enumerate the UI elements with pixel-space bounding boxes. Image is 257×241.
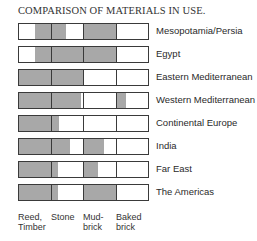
region-label: Mesopotamia/Persia	[156, 25, 243, 36]
material-bar	[18, 46, 149, 63]
chart-row	[18, 69, 149, 85]
usage-fill	[84, 47, 116, 62]
material-cell	[19, 93, 52, 108]
material-cell	[19, 70, 52, 85]
material-cell	[117, 162, 149, 177]
category-label: Bakedbrick	[116, 212, 142, 232]
chart-row	[18, 184, 149, 200]
material-bar	[18, 115, 149, 132]
material-cell	[19, 185, 52, 200]
material-bar	[18, 69, 149, 86]
usage-fill	[52, 70, 84, 85]
usage-fill	[84, 162, 98, 177]
chart-row	[18, 46, 149, 62]
material-cell	[19, 116, 52, 131]
category-label: Stone	[51, 212, 75, 232]
material-bar	[18, 23, 149, 40]
chart-row	[18, 161, 149, 177]
material-cell	[52, 93, 85, 108]
category-label: Mud-brick	[83, 212, 104, 232]
material-bar	[18, 138, 149, 155]
material-cell	[117, 24, 149, 39]
usage-fill	[52, 47, 84, 62]
material-cell	[19, 139, 52, 154]
usage-fill	[19, 162, 51, 177]
material-bar	[18, 161, 149, 178]
region-label: The Americas	[156, 186, 214, 197]
material-cell	[84, 24, 117, 39]
usage-fill	[52, 93, 82, 108]
material-cell	[84, 47, 117, 62]
material-cell	[52, 162, 85, 177]
material-cell	[52, 24, 85, 39]
usage-fill	[19, 93, 51, 108]
usage-fill	[35, 47, 51, 62]
region-label: Eastern Mediterranean	[156, 71, 253, 82]
material-cell	[52, 47, 85, 62]
material-cell	[117, 185, 149, 200]
region-label: Egypt	[156, 48, 180, 59]
material-cell	[52, 185, 85, 200]
usage-fill	[52, 24, 66, 39]
region-label: India	[156, 140, 177, 151]
material-cell	[84, 139, 117, 154]
region-label: Continental Europe	[156, 117, 237, 128]
usage-fill	[84, 24, 116, 39]
material-cell	[19, 24, 52, 39]
material-cell	[117, 139, 149, 154]
material-cell	[52, 116, 85, 131]
chart-row	[18, 23, 149, 39]
usage-fill	[52, 162, 58, 177]
chart-row	[18, 138, 149, 154]
region-label: Far East	[156, 163, 192, 174]
chart-title: COMPARISON OF MATERIALS IN USE.	[18, 5, 205, 16]
material-cell	[84, 162, 117, 177]
usage-fill	[84, 185, 116, 200]
material-cell	[84, 93, 117, 108]
material-cell	[52, 139, 85, 154]
usage-fill	[52, 139, 71, 154]
material-cell	[117, 93, 149, 108]
usage-fill	[35, 24, 51, 39]
material-cell	[117, 116, 149, 131]
material-cell	[117, 70, 149, 85]
material-cell	[84, 185, 117, 200]
material-cell	[84, 116, 117, 131]
material-bar	[18, 92, 149, 109]
material-cell	[19, 47, 52, 62]
usage-fill	[19, 116, 51, 131]
usage-fill	[19, 70, 51, 85]
category-label: Reed,Timber	[18, 212, 46, 232]
usage-fill	[19, 185, 51, 200]
material-cell	[117, 47, 149, 62]
usage-fill	[117, 93, 126, 108]
chart-row	[18, 115, 149, 131]
usage-fill	[52, 116, 60, 131]
region-label: Western Mediterranean	[156, 94, 255, 105]
material-bar	[18, 184, 149, 201]
material-cell	[84, 70, 117, 85]
usage-fill	[52, 185, 58, 200]
material-cell	[19, 162, 52, 177]
usage-fill	[19, 139, 51, 154]
material-cell	[52, 70, 85, 85]
chart-row	[18, 92, 149, 108]
usage-fill	[84, 139, 104, 154]
